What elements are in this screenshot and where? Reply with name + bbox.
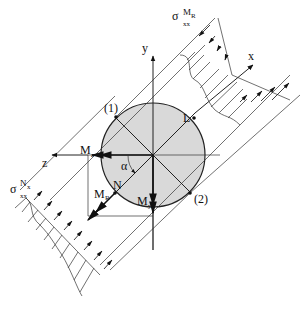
moment-mr: M R (88, 187, 116, 220)
y-axis-label: y (142, 41, 148, 55)
svg-text:N: N (113, 178, 122, 192)
svg-text:z: z (91, 151, 94, 159)
x-axis-label: x (248, 49, 254, 63)
z-axis-label: z (42, 156, 47, 170)
svg-text:(1): (1) (104, 101, 118, 115)
svg-text:M: M (183, 7, 191, 17)
svg-text:xx: xx (183, 20, 191, 28)
sigma-bottom-symbol: σ (10, 182, 17, 196)
mr-label: M (94, 187, 105, 201)
svg-text:x: x (27, 183, 31, 191)
mz-label: M (80, 143, 91, 157)
my-label: M (137, 194, 148, 208)
svg-text:y: y (148, 202, 152, 210)
z-axis: z (42, 155, 88, 170)
diagram-canvas: y z x M z M y M R α (1) (2) (0, 0, 303, 311)
point-2: (2) (188, 191, 208, 206)
svg-text:R: R (191, 12, 196, 20)
svg-text:(2): (2) (194, 192, 208, 206)
stress-distribution-bending: σ xx M R (172, 7, 290, 125)
svg-text:N: N (20, 178, 27, 188)
svg-text:xx: xx (20, 192, 28, 200)
svg-text:R: R (105, 194, 110, 202)
alpha-label: α (121, 159, 128, 173)
sigma-top-symbol: σ (172, 9, 179, 23)
point-1: (1) (104, 101, 118, 119)
svg-text:L: L (183, 111, 190, 125)
